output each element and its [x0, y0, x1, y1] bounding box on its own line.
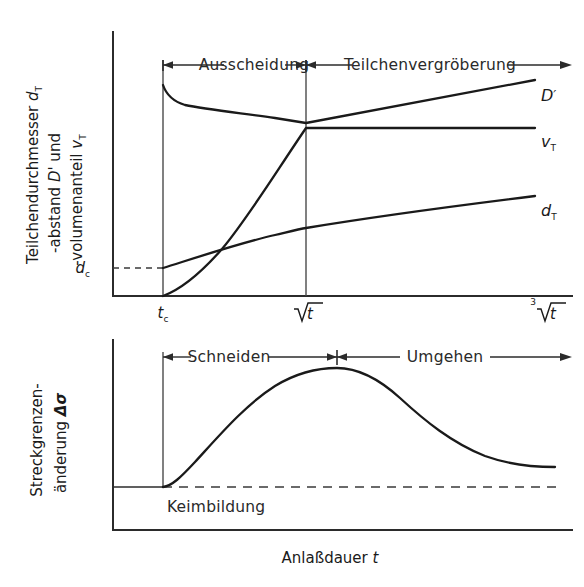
curve-label-d-prime: D′ [541, 86, 556, 105]
umgehen-right-arrowhead [560, 353, 572, 361]
upper-y-axis-label-line1: Teilchendurchmesser dT [24, 86, 44, 265]
sqrt-t-symbol: t [307, 305, 314, 323]
region-label-umgehen: Umgehen [407, 348, 483, 366]
ausscheidung-left-arrowhead [163, 61, 173, 69]
upper-y-axis-label-row2: -abstand D' und [46, 133, 64, 253]
umgehen-left-arrowhead [337, 353, 347, 361]
curve-label-d-t: dT [541, 201, 557, 222]
lower-x-axis-label: Anlaßdauer t [282, 549, 380, 567]
upper-y-axis-label-line2: -abstand D' und [46, 133, 64, 253]
cbrt-index: 3 [530, 297, 536, 307]
figure-container: Ausscheidung Teilchenvergröberung D′ vT … [0, 0, 584, 587]
lower-y-axis-label-line1: Streckgrenzen- [28, 383, 46, 497]
curve-d-t [163, 196, 535, 268]
curve-delta-sigma [163, 368, 555, 487]
diagram-svg: Ausscheidung Teilchenvergröberung D′ vT … [0, 0, 584, 587]
annotation-keimbildung: Keimbildung [167, 498, 265, 516]
cbrt-t-symbol: t [550, 305, 557, 323]
upper-y-axis-label-line3: -volumenanteil vT [68, 134, 88, 266]
upper-y-axis-label-row3: -volumenanteil vT [68, 134, 88, 266]
region-label-teilchenvergroeberung: Teilchenvergröberung [343, 56, 516, 74]
upper-panel: Ausscheidung Teilchenvergröberung D′ vT … [24, 32, 572, 324]
schneiden-left-arrowhead [163, 353, 173, 361]
upper-y-axis-label: Teilchendurchmesser dT [24, 86, 44, 265]
x-ticklabel-cbrt-t: 3 t [530, 297, 566, 323]
region-label-ausscheidung: Ausscheidung [199, 56, 310, 74]
lower-y-axis-label-row1: Streckgrenzen- [28, 383, 46, 497]
curve-v-t [163, 128, 535, 296]
vergroeberung-right-arrowhead [560, 61, 572, 69]
lower-y-axis-label-line2: änderung Δσ [52, 393, 70, 494]
schneiden-right-arrowhead [327, 353, 337, 361]
lower-y-axis-label-row2: änderung Δσ [52, 393, 70, 494]
x-ticklabel-tc: tc [158, 304, 169, 324]
lower-panel: Schneiden Umgehen Keimbildung Streckgren… [28, 340, 572, 567]
curve-label-v-t: vT [541, 132, 556, 153]
x-ticklabel-sqrt-t: t [294, 303, 323, 323]
region-label-schneiden: Schneiden [188, 348, 271, 366]
curve-d-prime [163, 80, 535, 123]
